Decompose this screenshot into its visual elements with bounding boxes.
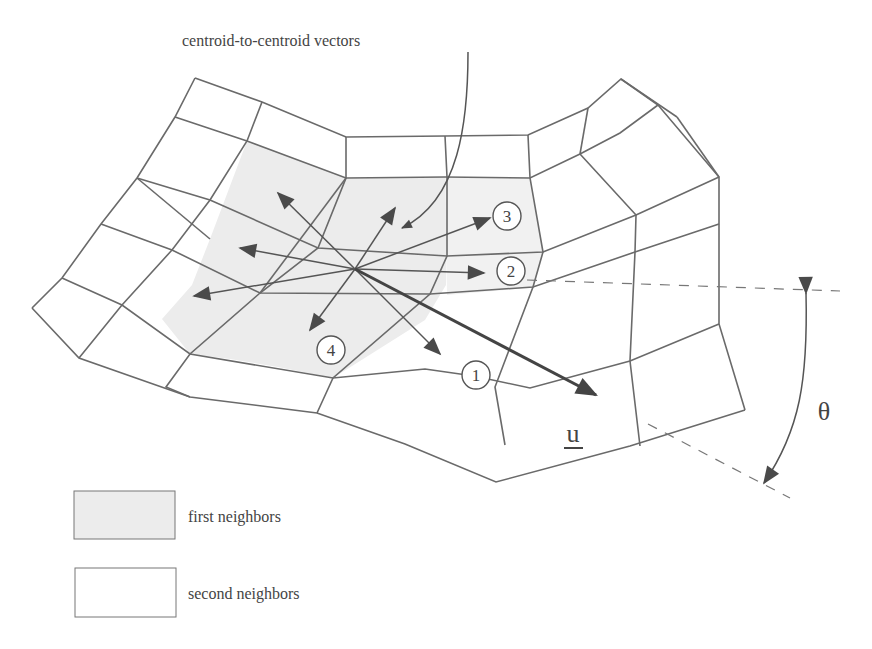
legend-item-second-neighbors: second neighbors [75, 568, 300, 617]
reference-line-horizontal [527, 280, 840, 291]
legend-swatch-first [74, 491, 175, 539]
neighbor-marker-3: 3 [493, 202, 521, 230]
angle-arc [764, 293, 806, 483]
reference-line-u-direction [648, 424, 790, 498]
svg-text:3: 3 [503, 207, 512, 226]
vector-u-label: u [567, 419, 580, 448]
svg-text:4: 4 [327, 341, 336, 360]
legend-swatch-second [75, 568, 176, 617]
callout-label: centroid-to-centroid vectors [182, 32, 360, 49]
neighbor-marker-2: 2 [497, 257, 525, 285]
svg-text:first neighbors: first neighbors [188, 508, 281, 526]
theta-label: θ [818, 397, 830, 426]
neighbor-marker-1: 1 [462, 361, 490, 389]
svg-text:1: 1 [472, 366, 481, 385]
first-neighbors-region-right [445, 177, 543, 295]
svg-text:2: 2 [507, 262, 516, 281]
legend: first neighbors second neighbors [74, 491, 300, 617]
svg-text:second neighbors: second neighbors [188, 585, 300, 603]
legend-item-first-neighbors: first neighbors [74, 491, 281, 539]
mesh-diagram: centroid-to-centroid vectors 3 2 4 1 u θ… [0, 0, 872, 649]
neighbor-marker-4: 4 [317, 336, 345, 364]
